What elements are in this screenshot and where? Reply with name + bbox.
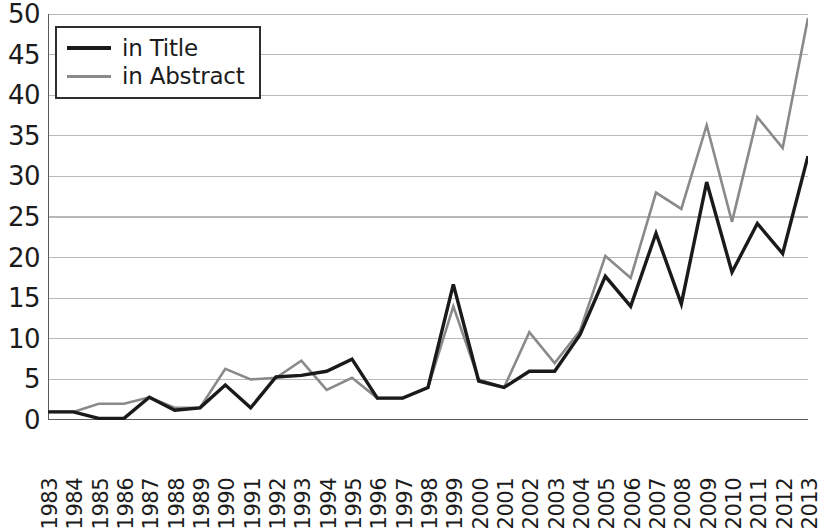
x-tick-label: 1983 (40, 478, 61, 532)
legend-item-in-abstract: in Abstract (67, 62, 245, 90)
x-tick-label: 2005 (597, 478, 618, 532)
x-tick-label: 1984 (65, 478, 86, 532)
x-tick-label: 2007 (648, 478, 669, 532)
x-tick-label: 1990 (217, 478, 238, 532)
x-tick-label: 2006 (623, 478, 644, 532)
y-tick-label: 45 (0, 42, 40, 68)
x-tick-label: 2010 (724, 478, 745, 532)
y-tick-label: 20 (0, 245, 40, 271)
legend-label-in-title: in Title (122, 37, 198, 60)
x-tick-label: 1986 (116, 478, 137, 532)
y-tick-label: 25 (0, 204, 40, 230)
x-tick-label: 1997 (395, 478, 416, 532)
x-tick-label: 1999 (445, 478, 466, 532)
x-tick-label: 1987 (141, 478, 162, 532)
x-tick-label: 1998 (420, 478, 441, 532)
x-tick-label: 1989 (192, 478, 213, 532)
legend-item-in-title: in Title (67, 34, 245, 62)
x-tick-label: 1985 (91, 478, 112, 532)
x-tick-label: 1992 (268, 478, 289, 532)
legend-line-swatch-icon (67, 46, 111, 50)
x-tick-label: 2011 (749, 478, 770, 532)
y-axis: 50454035302520151050 (0, 0, 46, 482)
x-tick-label: 2003 (547, 478, 568, 532)
legend: in Title in Abstract (55, 26, 261, 99)
x-tick-label: 2012 (775, 478, 796, 532)
x-tick-label: 2013 (800, 478, 821, 532)
y-tick-label: 50 (0, 1, 40, 27)
y-tick-label: 5 (0, 366, 40, 392)
x-axis: 1983198419851986198719881989199019911992… (48, 422, 808, 482)
y-tick-label: 0 (0, 407, 40, 433)
x-tick-label: 2008 (673, 478, 694, 532)
y-tick-label: 35 (0, 123, 40, 149)
legend-label-in-abstract: in Abstract (122, 65, 245, 88)
x-tick-label: 1995 (344, 478, 365, 532)
x-tick-label: 1993 (293, 478, 314, 532)
x-tick-label: 2000 (471, 478, 492, 532)
x-tick-label: 1994 (319, 478, 340, 532)
x-tick-label: 2002 (521, 478, 542, 532)
x-tick-label: 2009 (699, 478, 720, 532)
y-tick-label: 15 (0, 285, 40, 311)
x-tick-label: 2001 (496, 478, 517, 532)
x-tick-label: 1991 (243, 478, 264, 532)
x-tick-label: 2004 (572, 478, 593, 532)
x-tick-label: 1996 (369, 478, 390, 532)
legend-line-swatch-icon (67, 75, 111, 78)
y-tick-label: 10 (0, 326, 40, 352)
y-tick-label: 30 (0, 163, 40, 189)
y-tick-label: 40 (0, 82, 40, 108)
x-tick-label: 1988 (167, 478, 188, 532)
